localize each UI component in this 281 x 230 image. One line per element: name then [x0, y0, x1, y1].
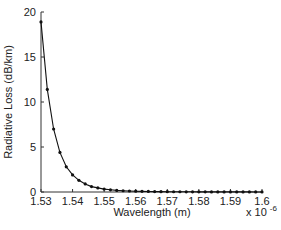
data-point — [52, 127, 55, 130]
x-multiplier-exponent: -6 — [270, 204, 278, 213]
data-point — [39, 20, 42, 23]
axes — [41, 12, 262, 192]
data-point — [223, 190, 226, 193]
data-point — [109, 188, 112, 191]
data-point — [90, 185, 93, 188]
data-point — [84, 182, 87, 185]
y-tick-label: 20 — [24, 6, 36, 18]
data-point — [235, 190, 238, 193]
data-point — [210, 190, 213, 193]
data-point — [159, 190, 162, 193]
data-point — [191, 190, 194, 193]
data-point — [216, 190, 219, 193]
y-axis-label: Radiative Loss (dB/km) — [2, 45, 14, 159]
data-point — [172, 190, 175, 193]
data-point — [166, 190, 169, 193]
radiative-loss-chart: 05101520 1.531.541.551.561.571.581.591.6… — [0, 0, 281, 230]
loss-curve — [41, 22, 262, 192]
y-tick-label: 15 — [24, 51, 36, 63]
data-point — [121, 189, 124, 192]
data-point — [134, 190, 137, 193]
data-point — [254, 190, 257, 193]
x-tick-label: 1.59 — [220, 195, 241, 207]
data-point — [96, 186, 99, 189]
data-point — [65, 165, 68, 168]
x-multiplier-base: x 10 — [246, 206, 267, 218]
x-multiplier: x 10 -6 — [246, 204, 278, 218]
data-point — [71, 173, 74, 176]
data-markers — [39, 20, 263, 193]
data-point — [248, 190, 251, 193]
data-point — [229, 190, 232, 193]
data-point — [147, 190, 150, 193]
data-point — [178, 190, 181, 193]
x-tick-label: 1.53 — [30, 195, 51, 207]
data-point — [197, 190, 200, 193]
x-tick-label: 1.54 — [62, 195, 83, 207]
data-point — [204, 190, 207, 193]
data-point — [241, 190, 244, 193]
y-tick-label: 10 — [24, 96, 36, 108]
data-point — [185, 190, 188, 193]
x-tick-label: 1.58 — [188, 195, 209, 207]
data-point — [58, 151, 61, 154]
data-point — [77, 179, 80, 182]
data-point — [46, 88, 49, 91]
data-point — [260, 190, 263, 193]
data-point — [103, 188, 106, 191]
data-point — [115, 189, 118, 192]
y-tick-label: 5 — [30, 141, 36, 153]
data-point — [153, 190, 156, 193]
data-point — [140, 190, 143, 193]
x-tick-label: 1.55 — [93, 195, 114, 207]
data-point — [128, 189, 131, 192]
x-axis-label: Wavelength (m) — [113, 206, 190, 218]
